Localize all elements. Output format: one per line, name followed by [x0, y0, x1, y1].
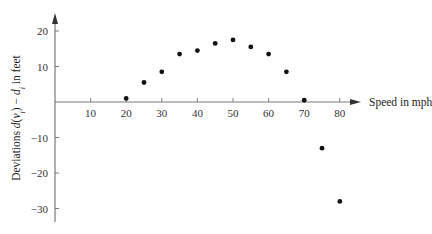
scatter-chart: 1020304050607080 2010−10−20−30 Speed in …: [0, 0, 432, 234]
y-axis-arrow-icon: [52, 13, 58, 24]
y-tick-label: −30: [31, 203, 49, 215]
x-tick-label: 50: [228, 107, 240, 119]
tick-marks: [55, 31, 340, 209]
data-point: [284, 69, 289, 74]
data-point: [195, 48, 200, 53]
y-axis-title: Deviations d(vi) − di in feet: [10, 54, 27, 180]
x-tick-labels: 1020304050607080: [85, 107, 346, 119]
x-tick-label: 80: [334, 107, 346, 119]
x-axis-title: Speed in mph: [369, 96, 432, 109]
data-point: [231, 37, 236, 42]
data-point: [302, 98, 307, 103]
y-tick-label: −10: [31, 132, 49, 144]
data-point: [248, 45, 253, 50]
y-tick-label: 20: [37, 25, 49, 37]
data-point: [320, 146, 325, 151]
data-points: [124, 37, 342, 203]
x-tick-label: 30: [156, 107, 168, 119]
data-point: [337, 199, 342, 204]
y-tick-label: 10: [37, 61, 49, 73]
x-tick-label: 20: [121, 107, 133, 119]
axes: [52, 13, 361, 222]
x-tick-label: 70: [299, 107, 311, 119]
x-axis-arrow-icon: [350, 99, 361, 105]
data-point: [266, 52, 271, 57]
data-point: [177, 52, 182, 57]
data-point: [159, 69, 164, 74]
x-tick-label: 60: [263, 107, 275, 119]
x-tick-label: 40: [192, 107, 204, 119]
data-point: [142, 80, 147, 85]
y-tick-label: −20: [31, 167, 49, 179]
y-tick-labels: 2010−10−20−30: [31, 25, 49, 215]
data-point: [213, 41, 218, 46]
data-point: [124, 96, 129, 101]
x-tick-label: 10: [85, 107, 97, 119]
